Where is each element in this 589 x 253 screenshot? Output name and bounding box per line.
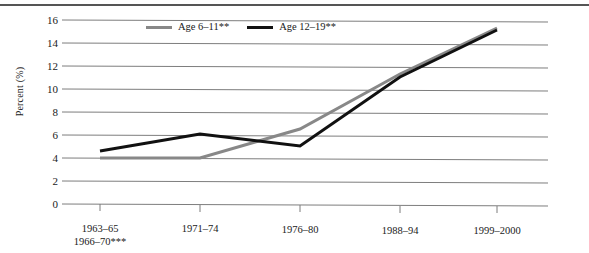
- legend-item-age-12-19: Age 12–19**: [247, 22, 336, 33]
- chart-legend: Age 6–11** Age 12–19**: [146, 22, 336, 33]
- y-tick-label: 14: [32, 37, 58, 49]
- y-tick-label: 6: [32, 129, 58, 141]
- legend-item-age-6-11: Age 6–11**: [146, 22, 229, 33]
- y-tick-label: 8: [32, 106, 58, 118]
- chart-svg: [0, 0, 589, 253]
- series-line-age-6-11: [100, 28, 497, 158]
- plot-area: Percent (%) 16 14 12 10 8 6 4 2 0: [0, 0, 589, 253]
- x-tick-label-1999-2000: 1999–2000: [422, 225, 572, 238]
- y-axis-title: Percent (%): [14, 47, 25, 137]
- y-tick-label: 4: [32, 152, 58, 164]
- y-tick-label: 10: [32, 83, 58, 95]
- legend-label-age-12-19: Age 12–19**: [279, 22, 336, 33]
- y-tick-label: 16: [32, 14, 58, 26]
- x-tick-label-line2: 1966–70***: [25, 236, 175, 249]
- y-tick-label: 0: [32, 198, 58, 210]
- y-tick-label: 2: [32, 175, 58, 187]
- legend-label-age-6-11: Age 6–11**: [178, 22, 229, 33]
- legend-swatch-gray: [146, 26, 172, 29]
- y-tick-label: 12: [32, 60, 58, 72]
- figure-container: Percent (%) 16 14 12 10 8 6 4 2 0: [0, 0, 589, 253]
- legend-swatch-black: [247, 26, 273, 29]
- x-axis-line: [62, 204, 548, 206]
